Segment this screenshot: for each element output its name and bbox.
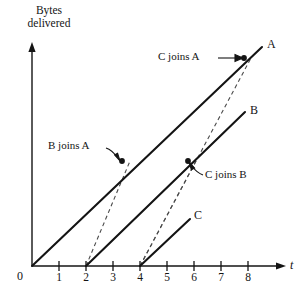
y-axis-arrowhead (28, 42, 35, 52)
dashed-convergence-lines (86, 58, 251, 266)
series-lines (32, 47, 262, 266)
x-tick-label-3: 3 (106, 271, 120, 284)
x-tick-label-6: 6 (187, 271, 201, 284)
series-line-a (32, 47, 262, 266)
dashed-b-to-a (86, 161, 130, 266)
x-axis-arrowhead (276, 262, 286, 269)
join-markers (119, 55, 247, 164)
series-label-a: A (267, 38, 276, 51)
y-axis-title-line2: delivered (16, 17, 82, 30)
annotation-b-joins-a: B joins A (48, 139, 90, 151)
y-axis (28, 42, 35, 266)
dashed-c-to-a (140, 58, 251, 266)
x-axis (32, 261, 286, 271)
x-axis-title: t (290, 259, 293, 272)
arrowhead-c-joins-a (235, 55, 243, 62)
annotation-arrows (106, 55, 243, 175)
annotation-c-joins-b: C joins B (205, 168, 247, 180)
series-label-c: C (194, 209, 202, 222)
x-tick-label-1: 1 (52, 271, 66, 284)
series-label-b: B (250, 104, 258, 117)
x-tick-label-8: 8 (241, 271, 255, 284)
x-tick-label-7: 7 (214, 271, 228, 284)
origin-label: 0 (17, 270, 23, 283)
chart-plot-area (0, 0, 307, 300)
arrowhead-b-joins-a (115, 153, 120, 161)
x-tick-label-5: 5 (160, 271, 174, 284)
y-axis-title-line1: Bytes (16, 4, 82, 17)
x-tick-label-4: 4 (133, 271, 147, 284)
series-line-c (140, 219, 190, 266)
chart-figure: Bytes delivered t 0 1 2 3 4 5 6 7 8 A B … (0, 0, 307, 300)
y-axis-title: Bytes delivered (16, 4, 82, 30)
x-tick-label-2: 2 (79, 271, 93, 284)
annotation-c-joins-a: C joins A (158, 50, 200, 62)
